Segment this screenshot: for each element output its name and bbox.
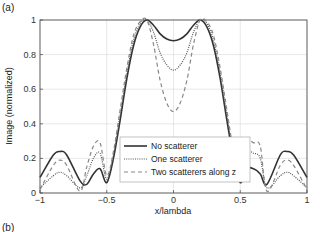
x-axis-label: x/lambda	[155, 206, 192, 216]
legend: No scatterer One scatterer Two scatterer…	[120, 137, 250, 182]
y-tick-label: 0.6	[23, 84, 36, 94]
line-chart: −1−0.500.5100.20.40.60.81 x/lambda Image…	[0, 0, 320, 232]
x-tick-label: 0.5	[234, 195, 247, 205]
x-tick-label: −0.5	[98, 195, 116, 205]
x-tick-label: 1	[304, 195, 309, 205]
x-tick-label: −1	[35, 195, 45, 205]
legend-label-no-scatterer: No scatterer	[151, 141, 197, 151]
y-tick-label: 0.8	[23, 50, 36, 60]
x-tick-label: 0	[171, 195, 176, 205]
y-axis-label: Image (normalized)	[4, 67, 14, 145]
y-tick-label: 1	[31, 15, 36, 25]
y-tick-label: 0	[31, 188, 36, 198]
y-tick-label: 0.2	[23, 153, 36, 163]
legend-label-one-scatterer: One scatterer	[151, 154, 203, 164]
y-tick-label: 0.4	[23, 119, 36, 129]
legend-label-two-scatterers: Two scatterers along z	[151, 167, 236, 177]
